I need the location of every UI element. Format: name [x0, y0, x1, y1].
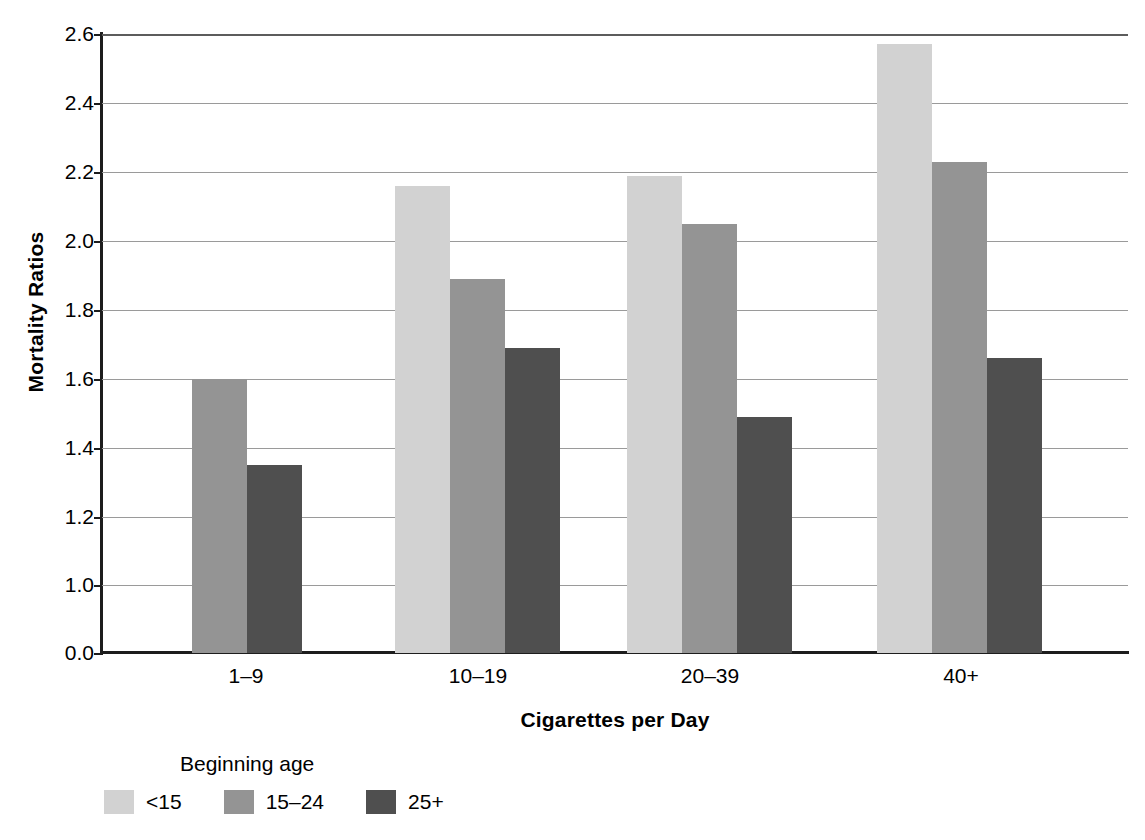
- bar: [682, 224, 737, 653]
- legend-items: <1515–2425+: [104, 790, 486, 814]
- y-tick-mark: [94, 379, 102, 381]
- legend-label: <15: [146, 790, 182, 814]
- bar: [627, 176, 682, 653]
- y-tick-mark: [94, 34, 102, 36]
- x-tick-label: 20–39: [681, 664, 739, 688]
- y-tick-mark: [94, 448, 102, 450]
- legend-swatch: [366, 790, 396, 814]
- y-tick-label: 1.2: [40, 505, 94, 529]
- mortality-ratios-bar-chart: Mortality Ratios 2.62.42.22.01.81.61.41.…: [0, 0, 1145, 840]
- y-tick-label: 1.0: [40, 573, 94, 597]
- legend-title: Beginning age: [180, 752, 314, 776]
- y-tick-label: 2.0: [40, 229, 94, 253]
- y-tick-mark: [94, 103, 102, 105]
- x-tick-label: 40+: [943, 664, 979, 688]
- bar: [395, 186, 450, 653]
- y-tick-label: 1.4: [40, 436, 94, 460]
- legend-swatch: [104, 790, 134, 814]
- legend-swatch: [224, 790, 254, 814]
- legend-label: 15–24: [266, 790, 324, 814]
- bar: [877, 44, 932, 653]
- legend-label: 25+: [408, 790, 444, 814]
- y-tick-mark: [94, 172, 102, 174]
- x-tick-label: 1–9: [228, 664, 263, 688]
- y-tick-label: 0.0: [40, 641, 94, 665]
- legend-item: 15–24: [224, 790, 366, 814]
- bars-layer: [102, 0, 1128, 653]
- bar: [192, 379, 247, 653]
- y-tick-label: 1.6: [40, 367, 94, 391]
- y-tick-mark: [94, 310, 102, 312]
- bar: [932, 162, 987, 653]
- bar: [247, 465, 302, 653]
- x-tick-label: 10–19: [449, 664, 507, 688]
- legend: Beginning age <1515–2425+: [104, 752, 564, 832]
- y-tick-label: 1.8: [40, 298, 94, 322]
- y-tick-label: 2.4: [40, 91, 94, 115]
- bar: [987, 358, 1042, 653]
- legend-item: <15: [104, 790, 224, 814]
- y-tick-label: 2.6: [40, 22, 94, 46]
- y-tick-label: 2.2: [40, 160, 94, 184]
- bar: [505, 348, 560, 653]
- bar: [737, 417, 792, 653]
- y-tick-mark: [94, 517, 102, 519]
- y-tick-mark: [94, 653, 102, 655]
- y-tick-mark: [94, 585, 102, 587]
- y-tick-mark: [94, 241, 102, 243]
- x-axis-title: Cigarettes per Day: [102, 708, 1128, 732]
- legend-item: 25+: [366, 790, 486, 814]
- bar: [450, 279, 505, 653]
